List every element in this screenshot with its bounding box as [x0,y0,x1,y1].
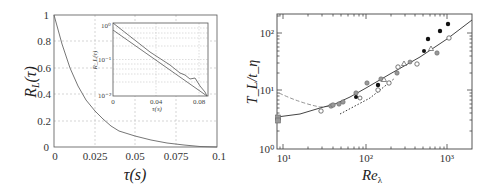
right-ytick: 10⁰ [259,143,275,155]
left-ytick: 0.2 [37,115,51,127]
inset-plot: 10⁻² 10⁻¹ 10⁰ 0 0.04 0.08 τ(s) R_L(τ) [91,22,208,113]
left-plot: 0 0.2 0.4 0.6 0.8 1 0 0.025 0.05 0.075 0… [22,9,226,184]
figure: 0 0.2 0.4 0.6 0.8 1 0 0.025 0.05 0.075 0… [0,0,489,191]
right-plot-frame [277,14,472,149]
gray-squares [276,115,281,123]
right-ylabel: T_L/t_η [245,60,260,104]
inset-xtick: 0.08 [193,98,206,106]
inset-ylabel: R_L(τ) [91,50,99,71]
solid-fit-line [277,20,472,117]
inset-ytick: 10⁻¹ [98,56,111,64]
dashed-curve [279,93,335,107]
left-xtick: 0.1 [212,150,226,162]
left-xtick: 0.075 [164,150,189,162]
right-xtick: 10³ [440,152,455,164]
right-xtick: 10¹ [277,152,291,164]
right-ytick: 10² [260,27,275,39]
right-ytick: 10¹ [260,84,274,96]
left-xlabel: τ(s) [124,166,147,184]
left-ytick: 0 [44,141,50,153]
left-ytick: 0.4 [37,88,51,100]
left-ytick: 0.8 [37,35,51,47]
left-xtick: 0.025 [83,150,108,162]
left-ytick: 0.6 [37,62,51,74]
left-xtick: 0.05 [125,150,145,162]
inset-ytick: 10⁻² [98,92,111,100]
right-plot: 10⁰ 10¹ 10² 10¹ 10² 10³ Reλ T_L/t_η [245,14,472,185]
inset-xlabel: τ(s) [152,105,163,113]
right-xlabel: Reλ [361,167,383,185]
filled-circles [354,22,450,99]
left-ytick: 1 [44,9,50,21]
right-xtick: 10² [359,152,374,164]
left-ylabel: RL(τ) [22,66,41,99]
left-xtick: 0 [52,150,58,162]
inset-xtick: 0 [111,98,115,106]
inset-ytick: 10⁰ [101,22,111,30]
